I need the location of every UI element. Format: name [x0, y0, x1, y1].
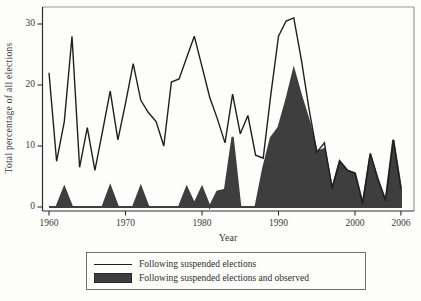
figure: Total percentage of all elections 0 10 2… — [0, 0, 421, 301]
x-axis-title: Year — [42, 232, 414, 243]
legend-sample — [94, 273, 132, 283]
y-tick-label: 0 — [9, 201, 35, 211]
x-tick-label: 1960 — [29, 218, 69, 228]
legend-sample — [94, 264, 132, 265]
x-tick-label: 2000 — [335, 218, 375, 228]
x-tick-label: 1990 — [259, 218, 299, 228]
legend-item-suspended-observed: Following suspended elections and observ… — [87, 271, 365, 285]
y-tick-label: 10 — [9, 140, 35, 150]
legend-label: Following suspended elections — [139, 259, 256, 269]
x-tick-label: 1980 — [182, 218, 222, 228]
x-tick-label: 1970 — [106, 218, 146, 228]
area-swatch-icon — [94, 273, 132, 283]
y-tick-label: 30 — [9, 18, 35, 28]
legend-item-suspended: Following suspended elections — [87, 257, 365, 271]
y-axis-title: Total percentage of all elections — [4, 3, 14, 213]
line-swatch-icon — [94, 264, 132, 265]
x-tick-label: 2006 — [381, 218, 421, 228]
y-tick-label: 20 — [9, 79, 35, 89]
chart-canvas — [0, 0, 421, 248]
legend-label: Following suspended elections and observ… — [139, 273, 309, 283]
legend: Following suspended elections Following … — [86, 252, 366, 290]
